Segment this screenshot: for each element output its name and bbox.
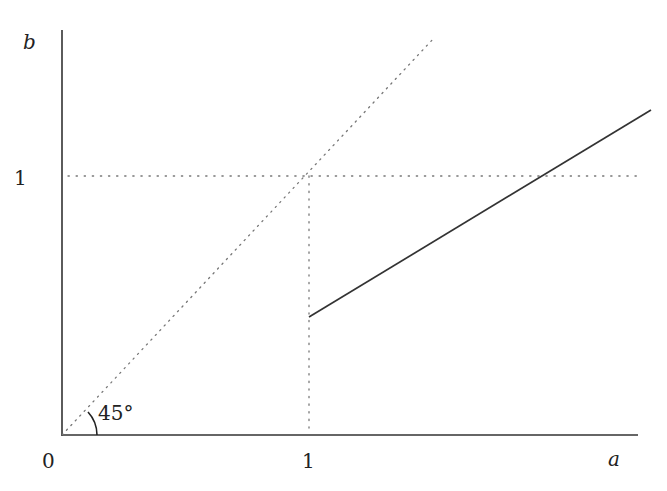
x-tick-label-1: 1 bbox=[302, 449, 315, 473]
angle-label: 45° bbox=[98, 401, 133, 425]
y-axis-label: b bbox=[23, 30, 36, 54]
x-axis-label: a bbox=[608, 447, 620, 471]
diagram-canvas: b 1 0 1 a 45° bbox=[0, 0, 667, 491]
origin-label: 0 bbox=[42, 449, 55, 473]
solid-line-segment bbox=[309, 110, 651, 317]
angle-arc bbox=[88, 412, 97, 435]
y-tick-label-1: 1 bbox=[14, 166, 27, 190]
diagonal-45-dotted-line bbox=[62, 38, 434, 435]
